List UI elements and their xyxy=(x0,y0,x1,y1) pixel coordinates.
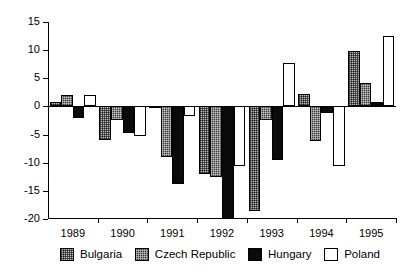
y-tick xyxy=(43,135,48,136)
x-tick-label: 1993 xyxy=(252,227,292,239)
legend-label: Poland xyxy=(344,248,380,261)
x-tick xyxy=(297,218,298,223)
y-axis-line xyxy=(48,22,49,219)
y-tick xyxy=(43,219,48,220)
x-tick xyxy=(147,218,148,223)
y-tick-label: -20 xyxy=(24,213,40,224)
x-tick xyxy=(247,218,248,223)
bar-poland-1992 xyxy=(234,106,246,165)
x-tick xyxy=(197,218,198,223)
bar-czech-republic-1995 xyxy=(360,83,372,106)
y-tick xyxy=(43,106,48,107)
bar-czech-republic-1992 xyxy=(210,106,222,176)
plot-area xyxy=(48,22,396,219)
bar-poland-1990 xyxy=(134,106,146,136)
legend-label: Hungary xyxy=(268,248,311,261)
bar-czech-republic-1990 xyxy=(111,106,123,120)
y-tick-label: 10 xyxy=(28,44,40,55)
legend-item-czech-republic[interactable]: Czech Republic xyxy=(135,248,236,261)
x-tick-label: 1995 xyxy=(351,227,391,239)
bar-bulgaria-1994 xyxy=(298,94,310,106)
y-tick-label: 15 xyxy=(28,16,40,27)
y-tick-label: 5 xyxy=(34,72,40,83)
y-tick xyxy=(43,163,48,164)
bar-hungary-1995 xyxy=(371,102,383,106)
x-tick-label: 1990 xyxy=(103,227,143,239)
x-tick xyxy=(396,218,397,223)
x-tick-label: 1994 xyxy=(301,227,341,239)
y-tick-label: -5 xyxy=(30,129,40,140)
legend-swatch-icon xyxy=(135,248,149,261)
bar-bulgaria-1992 xyxy=(199,106,211,174)
chart-legend: BulgariaCzech RepublicHungaryPoland xyxy=(60,243,380,265)
y-tick xyxy=(43,22,48,23)
bar-poland-1991 xyxy=(184,106,196,116)
x-tick-label: 1992 xyxy=(202,227,242,239)
bar-poland-1995 xyxy=(383,36,395,106)
x-tick xyxy=(346,218,347,223)
bar-bulgaria-1993 xyxy=(249,106,261,210)
legend-item-hungary[interactable]: Hungary xyxy=(248,248,311,261)
bar-czech-republic-1994 xyxy=(310,106,322,141)
bar-chart: 151050-5-10-15-20 1989199019911992199319… xyxy=(0,0,420,279)
legend-label: Czech Republic xyxy=(155,248,236,261)
legend-item-bulgaria[interactable]: Bulgaria xyxy=(60,248,122,261)
bar-poland-1994 xyxy=(333,106,345,166)
y-tick-label: 0 xyxy=(34,100,40,111)
bar-hungary-1994 xyxy=(321,106,333,113)
bar-bulgaria-1991 xyxy=(149,106,161,108)
y-tick-label: -15 xyxy=(24,185,40,196)
bar-bulgaria-1995 xyxy=(348,51,360,106)
y-tick-label: -10 xyxy=(24,157,40,168)
bar-czech-republic-1989 xyxy=(61,95,73,106)
bar-poland-1989 xyxy=(84,95,96,106)
bar-hungary-1993 xyxy=(272,106,284,159)
legend-label: Bulgaria xyxy=(80,248,122,261)
x-tick-label: 1991 xyxy=(152,227,192,239)
legend-item-poland[interactable]: Poland xyxy=(324,248,380,261)
bar-hungary-1990 xyxy=(123,106,135,132)
y-tick xyxy=(43,191,48,192)
legend-swatch-icon xyxy=(248,248,262,261)
legend-swatch-icon xyxy=(60,248,74,261)
bar-czech-republic-1993 xyxy=(260,106,272,120)
bar-hungary-1991 xyxy=(172,106,184,183)
bar-czech-republic-1991 xyxy=(161,106,173,157)
bar-hungary-1989 xyxy=(73,106,85,117)
x-tick xyxy=(98,218,99,223)
y-tick xyxy=(43,78,48,79)
x-tick-label: 1989 xyxy=(53,227,93,239)
legend-swatch-icon xyxy=(324,248,338,261)
bar-bulgaria-1989 xyxy=(50,102,62,107)
bar-poland-1993 xyxy=(283,63,295,106)
y-tick xyxy=(43,50,48,51)
bar-hungary-1992 xyxy=(222,106,234,219)
bar-bulgaria-1990 xyxy=(99,106,111,140)
